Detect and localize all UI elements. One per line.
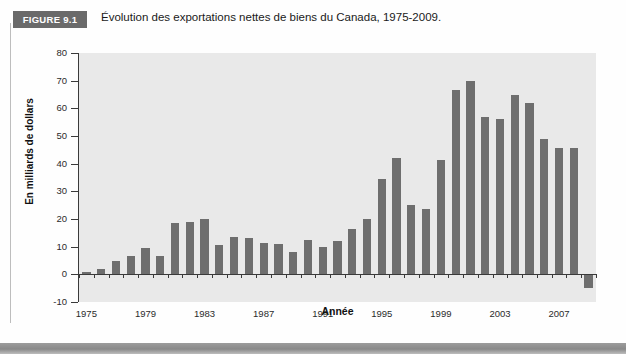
bar <box>112 261 120 275</box>
footer-band <box>0 343 626 354</box>
x-tick <box>330 274 331 278</box>
y-axis-line <box>78 53 79 302</box>
y-tick <box>71 219 78 220</box>
bar <box>171 223 179 274</box>
figure-caption: Évolution des exportations nettes de bie… <box>101 11 441 23</box>
y-tick-label: 10 <box>56 241 67 252</box>
y-tick-label: 20 <box>56 213 67 224</box>
x-tick <box>138 274 139 278</box>
y-tick <box>71 108 78 109</box>
x-tick <box>79 274 80 278</box>
y-tick <box>71 164 78 165</box>
x-tick <box>212 274 213 278</box>
bar <box>392 158 400 274</box>
bar <box>215 245 223 274</box>
x-tick <box>360 274 361 278</box>
zero-baseline <box>78 274 596 275</box>
bar <box>304 240 312 275</box>
bar <box>452 90 460 274</box>
bar <box>127 256 135 274</box>
bar <box>230 237 238 274</box>
x-tick <box>153 274 154 278</box>
x-tick <box>493 274 494 278</box>
bar <box>141 248 149 274</box>
bar <box>540 139 548 275</box>
bar <box>289 252 297 274</box>
x-tick <box>94 274 95 278</box>
x-tick <box>227 274 228 278</box>
x-tick <box>197 274 198 278</box>
x-tick <box>448 274 449 278</box>
figure-page: FIGURE 9.1 Évolution des exportations ne… <box>0 0 626 354</box>
bar <box>496 119 504 274</box>
x-tick <box>507 274 508 278</box>
bar <box>319 247 327 275</box>
x-tick <box>374 274 375 278</box>
bar <box>570 148 578 274</box>
x-tick <box>315 274 316 278</box>
bar <box>437 160 445 275</box>
bar <box>260 243 268 275</box>
y-tick-label: 30 <box>56 185 67 196</box>
y-tick <box>71 81 78 82</box>
bar <box>584 274 592 288</box>
y-tick-label: 50 <box>56 130 67 141</box>
x-tick <box>463 274 464 278</box>
y-tick-label: 70 <box>56 75 67 86</box>
bar <box>156 256 164 274</box>
x-tick <box>256 274 257 278</box>
y-tick-label: -10 <box>53 296 67 307</box>
x-tick <box>596 274 597 278</box>
bar <box>481 117 489 275</box>
bar <box>363 219 371 274</box>
x-tick <box>522 274 523 278</box>
bar <box>200 219 208 274</box>
plot-area <box>79 53 596 302</box>
x-tick <box>345 274 346 278</box>
x-tick <box>419 274 420 278</box>
bar <box>525 103 533 275</box>
x-tick <box>123 274 124 278</box>
y-tick <box>71 247 78 248</box>
x-tick <box>168 274 169 278</box>
y-tick-label: 40 <box>56 158 67 169</box>
y-tick <box>71 136 78 137</box>
y-tick-label: 0 <box>62 268 67 279</box>
bar <box>333 241 341 274</box>
y-tick-label: 60 <box>56 102 67 113</box>
x-tick <box>389 274 390 278</box>
x-tick <box>109 274 110 278</box>
bar <box>274 244 282 274</box>
x-axis-title: Année <box>79 305 596 317</box>
x-tick <box>537 274 538 278</box>
bar <box>422 209 430 274</box>
y-tick <box>71 302 78 303</box>
bar <box>511 95 519 275</box>
x-tick <box>581 274 582 278</box>
x-tick <box>434 274 435 278</box>
bar <box>407 205 415 274</box>
x-tick <box>404 274 405 278</box>
bar <box>555 148 563 274</box>
x-tick <box>301 274 302 278</box>
x-tick <box>182 274 183 278</box>
bar <box>245 238 253 274</box>
chart-container: En milliards de dollars -100102030405060… <box>10 40 616 323</box>
x-tick <box>241 274 242 278</box>
y-axis-labels: -1001020304050607080 <box>10 40 67 323</box>
y-tick <box>71 191 78 192</box>
y-tick <box>71 53 78 54</box>
x-tick <box>566 274 567 278</box>
x-tick <box>478 274 479 278</box>
bar <box>378 179 386 274</box>
x-tick <box>286 274 287 278</box>
bar <box>348 229 356 275</box>
x-tick <box>271 274 272 278</box>
bar <box>186 222 194 275</box>
bar <box>466 81 474 275</box>
y-tick-label: 80 <box>56 47 67 58</box>
x-tick <box>552 274 553 278</box>
y-tick <box>71 274 78 275</box>
figure-number-badge: FIGURE 9.1 <box>13 11 87 28</box>
